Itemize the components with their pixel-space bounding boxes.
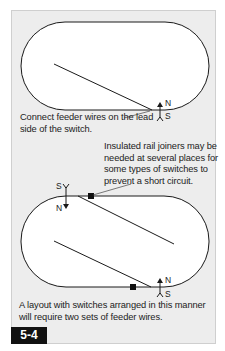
right-feeder-south-label: S bbox=[165, 290, 171, 299]
joiner-note: Insulated rail joiners may be needed at … bbox=[104, 141, 219, 187]
top-track-loop bbox=[21, 22, 209, 110]
figure-number-badge: 5-4 bbox=[11, 327, 47, 344]
bottom-caption: A layout with switches arranged in this … bbox=[19, 300, 219, 323]
insulated-joiner-lower bbox=[130, 284, 136, 290]
bottom-track-loop bbox=[21, 196, 209, 287]
top-feeder-south-label: S bbox=[165, 112, 171, 121]
left-feeder-north-label: N bbox=[56, 204, 62, 213]
top-feeder-north-label: N bbox=[165, 99, 171, 108]
top-caption: Connect feeder wires on the lead side of… bbox=[20, 112, 160, 135]
insulated-joiner-upper bbox=[88, 193, 94, 199]
right-feeder-north-label: N bbox=[165, 276, 171, 285]
left-feeder-south-label: S bbox=[56, 182, 62, 191]
